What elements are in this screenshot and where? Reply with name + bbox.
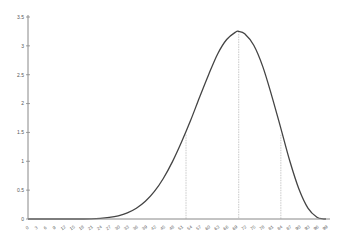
x-tick-label: 24 (96, 224, 103, 231)
x-tick-label: 75 (249, 224, 256, 231)
x-tick-label: 96 (313, 224, 320, 231)
x-tick-label: 66 (222, 224, 229, 231)
x-tick-label: 57 (195, 224, 202, 231)
x-tick-label: 6 (43, 225, 48, 231)
y-tick-label: 2 (21, 100, 24, 106)
x-tick-label: 69 (231, 224, 238, 231)
y-axis: 00.511.522.533.5 (17, 14, 30, 222)
y-tick-label: 2.5 (17, 72, 24, 78)
y-tick-label: 3 (21, 43, 24, 49)
x-axis: 0369121518212427303336394245485154576063… (25, 219, 330, 231)
x-tick-label: 90 (295, 224, 302, 231)
x-tick-label: 18 (78, 224, 85, 231)
x-tick-label: 15 (69, 224, 76, 231)
y-tick-label: 0.5 (17, 187, 24, 193)
x-tick-label: 36 (132, 224, 139, 231)
density-chart: 00.511.522.533.5 03691215182124273033363… (0, 0, 345, 242)
x-tick-label: 21 (87, 224, 94, 231)
x-tick-label: 63 (213, 224, 220, 231)
series-line (28, 31, 326, 219)
reference-lines (186, 31, 281, 219)
x-tick-label: 78 (258, 224, 265, 231)
x-tick-label: 3 (34, 225, 39, 231)
y-tick-label: 1 (21, 158, 24, 164)
y-tick-label: 1.5 (17, 129, 24, 135)
x-tick-label: 87 (286, 224, 293, 231)
x-tick-label: 27 (105, 224, 112, 231)
x-tick-label: 0 (25, 225, 30, 231)
x-tick-label: 33 (123, 224, 130, 231)
x-tick-label: 99 (322, 224, 329, 231)
x-tick-label: 42 (150, 224, 157, 231)
x-tick-label: 93 (304, 224, 311, 231)
y-tick-label: 3.5 (17, 14, 24, 20)
x-tick-label: 84 (276, 224, 283, 231)
density-curve (28, 31, 326, 219)
x-tick-label: 30 (114, 224, 121, 231)
x-tick-label: 72 (240, 224, 247, 231)
x-tick-label: 12 (60, 224, 67, 231)
x-tick-label: 45 (159, 224, 166, 231)
x-tick-label: 39 (141, 224, 148, 231)
x-tick-label: 81 (267, 224, 274, 231)
x-tick-label: 48 (168, 224, 175, 231)
x-tick-label: 51 (177, 224, 184, 231)
x-tick-label: 54 (186, 224, 193, 231)
y-tick-label: 0 (21, 216, 24, 222)
x-tick-label: 9 (52, 225, 57, 231)
x-tick-label: 60 (204, 224, 211, 231)
